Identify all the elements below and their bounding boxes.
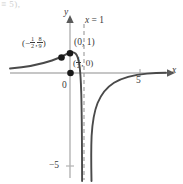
label-y-axis: y (64, 8, 68, 18)
paren-close: ) (43, 38, 46, 48)
point-local-max (58, 54, 65, 61)
label-x-axis: x (172, 66, 176, 76)
paren-close: ) (90, 58, 93, 68)
comma-zero: , 0 (81, 58, 90, 68)
curve-right-branch (91, 73, 166, 181)
asymptote-value: 1 (99, 15, 104, 25)
label-point-x-intercept: (12, 0) (73, 56, 93, 70)
label-tick-x-5: 5 (136, 76, 141, 86)
asymptote-variable: x (85, 15, 89, 25)
label-tick-y-minus5: −5 (49, 161, 59, 171)
point-x-intercept (67, 70, 74, 77)
label-origin: 0 (62, 81, 67, 91)
label-point-y-intercept: (0, 1) (74, 38, 95, 48)
function-graph-figure: ≡ 5), (−12,89) (0, 1) (12, 0) x (0, 0, 183, 184)
label-point-local-max: (−12,89) (22, 36, 46, 50)
figure-caption-fragment: ≡ 5), (1, 0, 21, 9)
label-vertical-asymptote: x = 1 (85, 16, 104, 26)
asymptote-equals: = (92, 15, 97, 25)
graph-svg (0, 0, 183, 184)
